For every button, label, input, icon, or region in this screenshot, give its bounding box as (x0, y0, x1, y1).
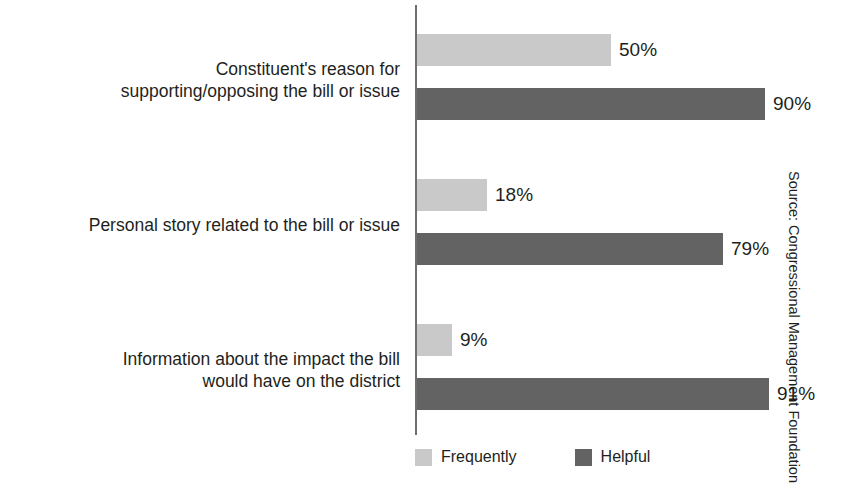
bar-helpful-2 (417, 378, 769, 410)
category-label-2: Information about the impact the bill wo… (0, 325, 408, 415)
category-label-0: Constituent's reason for supporting/oppo… (0, 35, 408, 125)
bar-helpful-1 (417, 233, 723, 265)
bar-helpful-0 (417, 88, 765, 120)
category-label-2-text: Information about the impact the bill wo… (123, 348, 408, 392)
source-attribution: Source: Congressional Management Foundat… (776, 0, 812, 489)
category-label-1: Personal story related to the bill or is… (0, 180, 408, 270)
legend-item-frequently: Frequently (415, 448, 517, 466)
legend-swatch-frequently-icon (415, 449, 432, 466)
legend-swatch-helpful-icon (575, 449, 592, 466)
bar-frequently-2 (417, 324, 452, 356)
bar-value-frequently-0: 50% (619, 34, 657, 66)
legend-item-helpful: Helpful (575, 448, 651, 466)
category-label-0-text: Constituent's reason for supporting/oppo… (121, 58, 408, 102)
bar-value-frequently-1: 18% (495, 179, 533, 211)
legend-label-helpful: Helpful (601, 448, 651, 466)
legend-label-frequently: Frequently (441, 448, 517, 466)
bar-frequently-0 (417, 34, 611, 66)
value-axis-line (415, 5, 417, 435)
bar-value-frequently-2: 9% (460, 324, 487, 356)
bar-chart: Constituent's reason for supporting/oppo… (0, 0, 850, 489)
chart-legend: Frequently Helpful (415, 443, 650, 471)
bar-frequently-1 (417, 179, 487, 211)
category-label-1-text: Personal story related to the bill or is… (89, 214, 408, 236)
bar-value-helpful-1: 79% (731, 233, 769, 265)
